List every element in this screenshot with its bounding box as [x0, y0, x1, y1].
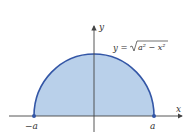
equation-radicand: a² − x² [138, 43, 165, 52]
semicircle-diagram: y x −a a y = a² − x² [0, 0, 184, 135]
equation-lhs: y = [112, 43, 128, 53]
neg-a-label: −a [25, 121, 38, 131]
y-axis-label: y [98, 22, 105, 32]
x-axis-label: x [176, 104, 181, 114]
a-label: a [150, 121, 155, 131]
point-a [152, 114, 156, 118]
point-neg-a [32, 114, 36, 118]
